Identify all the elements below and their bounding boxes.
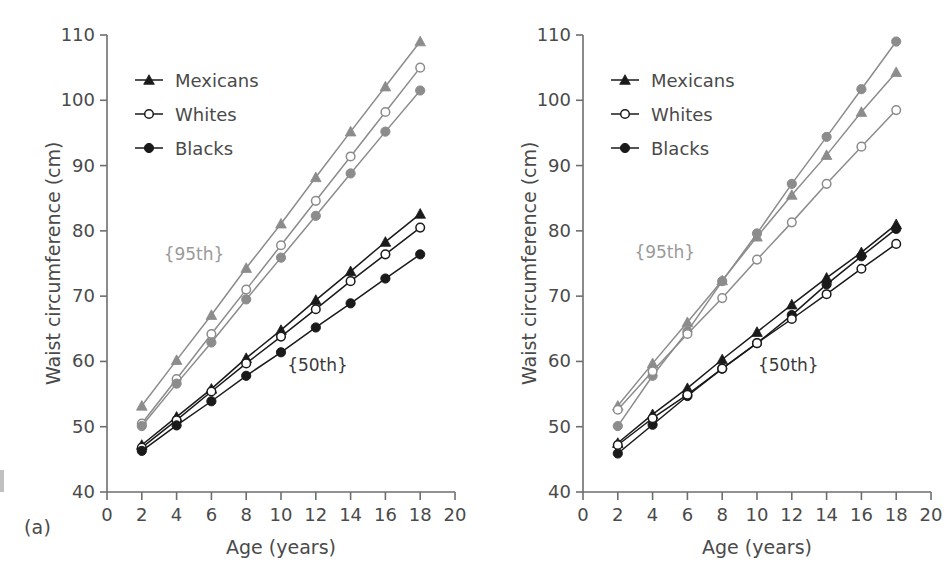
y-axis-tick-label: 110	[537, 24, 571, 45]
data-point-filled-circle	[346, 299, 355, 308]
y-axis-tick-label: 110	[61, 24, 95, 45]
x-axis-tick-label: 12	[780, 504, 803, 525]
data-point-open-circle	[145, 110, 154, 119]
panel-a-x-axis-label: Age (years)	[107, 536, 455, 558]
data-point-filled-triangle	[415, 209, 426, 219]
data-point-filled-circle	[416, 250, 425, 259]
data-point-filled-circle	[207, 338, 216, 347]
percentile-annotation: {50th}	[287, 355, 348, 375]
legend-item-blacks: Blacks	[611, 138, 709, 159]
panel-a-y-axis-label: Waist circumference (cm)	[42, 142, 64, 385]
data-point-open-circle	[648, 414, 657, 423]
data-point-open-circle	[207, 330, 216, 339]
legend: MexicansWhitesBlacks	[135, 70, 259, 159]
data-point-filled-triangle	[891, 67, 902, 77]
x-axis-tick-label: 12	[304, 504, 327, 525]
x-axis-tick-label: 20	[444, 504, 467, 525]
data-point-open-circle	[416, 223, 425, 232]
data-point-filled-circle	[276, 348, 285, 357]
data-point-filled-circle	[857, 85, 866, 94]
y-axis-tick-label: 50	[548, 416, 571, 437]
data-point-open-circle	[648, 367, 657, 376]
y-axis-tick-label: 60	[72, 350, 95, 371]
data-point-filled-circle	[137, 446, 146, 455]
x-axis-tick-label: 8	[716, 504, 727, 525]
legend-item-blacks: Blacks	[135, 138, 233, 159]
x-axis-tick-label: 18	[885, 504, 908, 525]
x-axis-tick-label: 4	[647, 504, 658, 525]
data-point-filled-circle	[242, 371, 251, 380]
data-point-filled-circle	[381, 274, 390, 283]
data-point-open-circle	[718, 294, 727, 303]
data-point-open-circle	[857, 264, 866, 273]
waist-circumference-figure: 40506070809010011002468101214161820{95th…	[0, 0, 952, 576]
data-point-open-circle	[381, 250, 390, 259]
panel-b-plot: 40506070809010011002468101214161820{95th…	[476, 0, 952, 576]
y-axis-tick-label: 100	[61, 89, 95, 110]
series-blacks-50th	[137, 250, 425, 456]
panel-b: 40506070809010011002468101214161820{95th…	[476, 0, 952, 576]
data-point-filled-circle	[144, 143, 153, 152]
data-point-open-circle	[614, 405, 623, 414]
data-point-filled-circle	[137, 421, 146, 430]
data-point-open-circle	[892, 106, 901, 115]
data-point-open-circle	[753, 339, 762, 348]
data-point-open-circle	[346, 277, 355, 286]
data-point-filled-circle	[242, 295, 251, 304]
legend-label: Blacks	[651, 138, 709, 159]
data-point-filled-circle	[416, 86, 425, 95]
data-point-open-circle	[788, 315, 797, 324]
legend-label: Whites	[175, 104, 237, 125]
x-axis-tick-label: 10	[270, 504, 293, 525]
panel-a: 40506070809010011002468101214161820{95th…	[0, 0, 476, 576]
data-point-open-circle	[346, 152, 355, 161]
data-point-filled-circle	[172, 421, 181, 430]
panel-b-y-axis-label: Waist circumference (cm)	[518, 142, 540, 385]
data-point-open-circle	[242, 285, 251, 294]
panel-a-plot: 40506070809010011002468101214161820{95th…	[0, 0, 476, 576]
data-point-open-circle	[312, 305, 321, 314]
x-axis-tick-label: 2	[136, 504, 147, 525]
data-point-filled-circle	[822, 132, 831, 141]
data-point-open-circle	[242, 359, 251, 368]
data-point-open-circle	[277, 241, 286, 250]
data-point-filled-circle	[613, 421, 622, 430]
y-axis-tick-label: 80	[548, 220, 571, 241]
x-axis-tick-label: 16	[374, 504, 397, 525]
data-point-filled-triangle	[787, 299, 798, 309]
data-point-open-circle	[822, 290, 831, 299]
data-point-open-circle	[857, 142, 866, 151]
legend-item-whites: Whites	[611, 104, 713, 125]
y-axis-tick-label: 90	[72, 155, 95, 176]
data-point-open-circle	[822, 180, 831, 189]
legend-item-mexicans: Mexicans	[611, 70, 735, 91]
data-point-filled-circle	[207, 397, 216, 406]
data-point-filled-circle	[276, 253, 285, 262]
x-axis-tick-label: 18	[409, 504, 432, 525]
y-axis-tick-label: 40	[72, 481, 95, 502]
x-axis-tick-label: 16	[850, 504, 873, 525]
percentile-annotation: {95th}	[634, 242, 695, 262]
data-point-open-circle	[207, 387, 216, 396]
data-point-filled-circle	[381, 127, 390, 136]
data-point-filled-circle	[172, 379, 181, 388]
data-point-open-circle	[892, 240, 901, 249]
y-axis-tick-label: 80	[72, 220, 95, 241]
data-point-open-circle	[381, 108, 390, 117]
legend-label: Whites	[651, 104, 713, 125]
percentile-annotation: {50th}	[758, 355, 819, 375]
data-point-filled-circle	[311, 323, 320, 332]
y-axis-tick-label: 70	[548, 285, 571, 306]
data-point-filled-circle	[892, 224, 901, 233]
data-point-filled-circle	[613, 449, 622, 458]
data-point-filled-circle	[346, 169, 355, 178]
y-axis-tick-label: 70	[72, 285, 95, 306]
data-point-open-circle	[683, 390, 692, 399]
x-axis-tick-label: 0	[101, 504, 112, 525]
data-point-filled-circle	[311, 211, 320, 220]
panel-b-x-axis-label: Age (years)	[583, 536, 931, 558]
data-point-open-circle	[312, 197, 321, 206]
percentile-annotation: {95th}	[164, 244, 225, 264]
x-axis-tick-label: 10	[746, 504, 769, 525]
legend-item-mexicans: Mexicans	[135, 70, 259, 91]
